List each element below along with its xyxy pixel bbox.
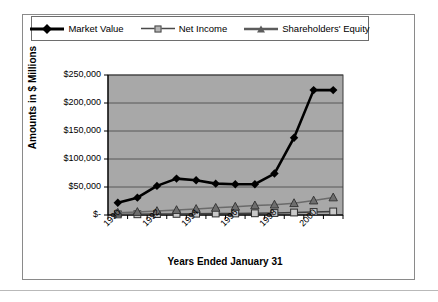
y-axis-title: Amounts in $ Millions <box>27 30 38 165</box>
triangle-marker-icon <box>244 23 278 35</box>
chart-legend: Market Value Net Income Shareholders' Eq… <box>31 16 369 41</box>
triangle-glyph <box>257 25 265 32</box>
square-glyph <box>154 25 161 32</box>
square-marker-icon <box>141 23 175 35</box>
legend-item-net-income: Net Income <box>141 23 228 35</box>
legend-item-market-value: Market Value <box>30 23 123 35</box>
legend-item-shareholders-equity: Shareholders' Equity <box>244 23 369 35</box>
page-divider-rule <box>0 290 438 291</box>
legend-label-shareholders-equity: Shareholders' Equity <box>282 24 369 34</box>
legend-label-net-income: Net Income <box>179 24 228 34</box>
figure-frame <box>22 14 415 280</box>
legend-label-market-value: Market Value <box>68 24 123 34</box>
diamond-glyph <box>42 24 52 34</box>
x-axis-title: Years Ended January 31 <box>100 256 350 267</box>
